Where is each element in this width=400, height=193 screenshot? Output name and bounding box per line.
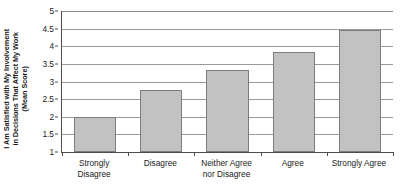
y-axis-title-line-1: I Am Satisfied with My Involvement — [2, 29, 11, 149]
y-tick-mark — [55, 11, 58, 12]
x-tick-mark — [261, 152, 262, 156]
y-tick-label: 5 — [49, 6, 54, 16]
y-tick-mark — [55, 81, 58, 82]
x-tick-mark — [327, 152, 328, 156]
x-tick-mark — [393, 152, 394, 156]
bar-slot — [128, 11, 194, 152]
y-tick-mark — [55, 46, 58, 47]
y-tick-label: 1.5 — [42, 129, 54, 139]
y-tick-label: 4.5 — [42, 24, 54, 34]
bar — [273, 52, 315, 152]
x-axis-label: Strongly Disagree — [61, 158, 127, 179]
bar-slot — [327, 11, 393, 152]
bar — [339, 30, 381, 152]
bar — [140, 90, 182, 152]
bar-slot — [62, 11, 128, 152]
bar-slot — [261, 11, 327, 152]
bar-chart: I Am Satisfied with My Involvement in De… — [0, 0, 400, 193]
x-axis-label: Strongly Agree — [326, 158, 392, 179]
plot-area — [61, 11, 393, 153]
y-axis-title: I Am Satisfied with My Involvement in De… — [0, 0, 32, 178]
y-tick-mark — [55, 63, 58, 64]
x-axis-label: Neither Agree nor Disagree — [193, 158, 259, 179]
y-tick-mark — [55, 28, 58, 29]
y-axis-ticks: 11.522.533.544.55 — [30, 0, 58, 193]
x-tick-mark — [62, 152, 63, 156]
y-tick-mark — [55, 134, 58, 135]
y-tick-mark — [55, 152, 58, 153]
x-tick-mark — [128, 152, 129, 156]
y-tick-label: 1 — [49, 147, 54, 157]
y-tick-mark — [55, 99, 58, 100]
bar — [206, 70, 248, 152]
y-tick-label: 2.5 — [42, 94, 54, 104]
y-tick-label: 4 — [49, 41, 54, 51]
y-tick-label: 3.5 — [42, 59, 54, 69]
y-axis-title-line-2: in Decisions That Affect My Work — [11, 29, 20, 149]
bar — [74, 117, 116, 152]
bar-series — [62, 11, 393, 152]
y-tick-mark — [55, 116, 58, 117]
x-axis-label: Disagree — [127, 158, 193, 179]
x-axis-label: Agree — [260, 158, 326, 179]
y-tick-label: 2 — [49, 112, 54, 122]
x-tick-mark — [194, 152, 195, 156]
y-axis-title-line-3: (Mean Score) — [21, 29, 30, 149]
x-axis-labels: Strongly DisagreeDisagreeNeither Agree n… — [61, 158, 392, 179]
bar-slot — [194, 11, 260, 152]
y-tick-label: 3 — [49, 77, 54, 87]
